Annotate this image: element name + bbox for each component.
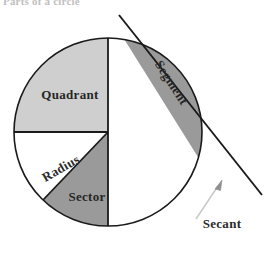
quadrant-region [14, 38, 108, 132]
secant-leader-arrow-icon [215, 180, 222, 191]
secant-leader-line [196, 186, 218, 219]
label-quadrant: Quadrant [41, 87, 99, 102]
label-sector: Sector [68, 189, 105, 204]
circle-diagram-svg: Quadrant Sector Radius Segment Secant [0, 0, 269, 258]
circle-parts-figure: Parts of a circle Qu [0, 0, 269, 258]
label-secant: Secant [203, 216, 242, 231]
